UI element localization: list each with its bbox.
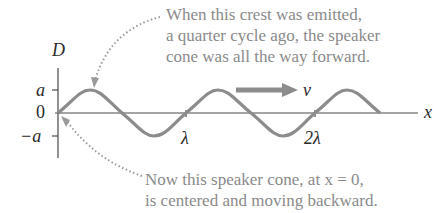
x-tick-lambda: λ <box>181 128 189 149</box>
top-annotation-line-1: When this crest was emitted, <box>166 5 362 25</box>
top-annotation-line-2: a quarter cycle ago, the speaker <box>166 26 380 46</box>
dotted-pointer-crest <box>95 17 160 80</box>
x-axis-label: x <box>424 102 432 123</box>
y-tick-neg-a: −a <box>20 126 41 147</box>
velocity-label: v <box>303 80 311 101</box>
y-axis-label: D <box>52 40 65 61</box>
x-tick-2lambda: 2λ <box>304 128 321 149</box>
bottom-annotation-line-1: Now this speaker cone, at x = 0, <box>145 170 364 190</box>
top-annotation-line-3: cone was all the way forward. <box>166 47 370 67</box>
bottom-annotation-line-2: is centered and moving backward. <box>145 191 378 211</box>
dotted-pointer-origin <box>66 120 142 176</box>
y-tick-zero: 0 <box>36 102 45 123</box>
y-tick-a: a <box>36 80 45 101</box>
